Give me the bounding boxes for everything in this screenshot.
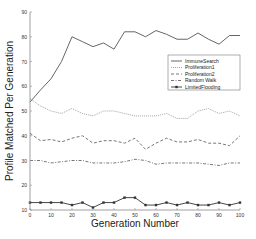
data-marker	[39, 201, 41, 203]
data-marker	[81, 201, 83, 203]
data-marker	[134, 196, 136, 198]
legend: ImmuneSearchProliferation1Proliferation2…	[168, 55, 240, 90]
legend-label-immunesearch: ImmuneSearch	[185, 58, 219, 64]
data-marker	[144, 204, 146, 206]
y-tick-label: 50	[21, 108, 27, 114]
y-tick-label: 20	[21, 182, 27, 188]
x-tick-label: 80	[195, 212, 201, 218]
data-marker	[113, 201, 115, 203]
legend-label-proliferation1: Proliferation1	[185, 64, 215, 70]
x-tick-label: 10	[48, 212, 54, 218]
x-tick-label: 100	[236, 212, 245, 218]
series-line-proliferation1	[30, 99, 240, 119]
x-tick-label: 90	[216, 212, 222, 218]
y-axis-title: Profile Matched Per Generation	[4, 41, 15, 181]
series-line-proliferation2	[30, 133, 240, 149]
data-marker	[155, 204, 157, 206]
x-tick-label: 0	[29, 212, 32, 218]
data-marker	[123, 196, 125, 198]
y-tick-label: 80	[21, 34, 27, 40]
data-marker	[186, 201, 188, 203]
data-marker	[102, 201, 104, 203]
y-tick-label: 90	[21, 9, 27, 15]
data-marker	[239, 201, 241, 203]
data-marker	[165, 201, 167, 203]
data-marker	[197, 204, 199, 206]
data-marker	[60, 201, 62, 203]
legend-marker	[175, 86, 177, 88]
y-tick-label: 40	[21, 133, 27, 139]
x-tick-label: 20	[69, 212, 75, 218]
line-chart: 102030405060708090 010203040506070809010…	[0, 0, 256, 239]
data-marker	[176, 204, 178, 206]
y-tick-label: 60	[21, 83, 27, 89]
series-line-random-walk	[30, 159, 240, 165]
y-tick-label: 70	[21, 59, 27, 65]
legend-label-random-walk: Random Walk	[185, 77, 217, 83]
legend-label-limitedflooding: LimitedFlooding	[185, 84, 221, 90]
y-tick-label: 10	[21, 207, 27, 213]
data-marker	[228, 204, 230, 206]
legend-label-proliferation2: Proliferation2	[185, 71, 215, 77]
data-marker	[50, 201, 52, 203]
data-marker	[71, 204, 73, 206]
y-ticks: 102030405060708090	[21, 9, 32, 213]
x-ticks: 0102030405060708090100	[29, 208, 245, 218]
data-marker	[207, 204, 209, 206]
x-axis-title: Generation Number	[91, 218, 179, 229]
data-marker	[218, 201, 220, 203]
y-tick-label: 30	[21, 158, 27, 164]
